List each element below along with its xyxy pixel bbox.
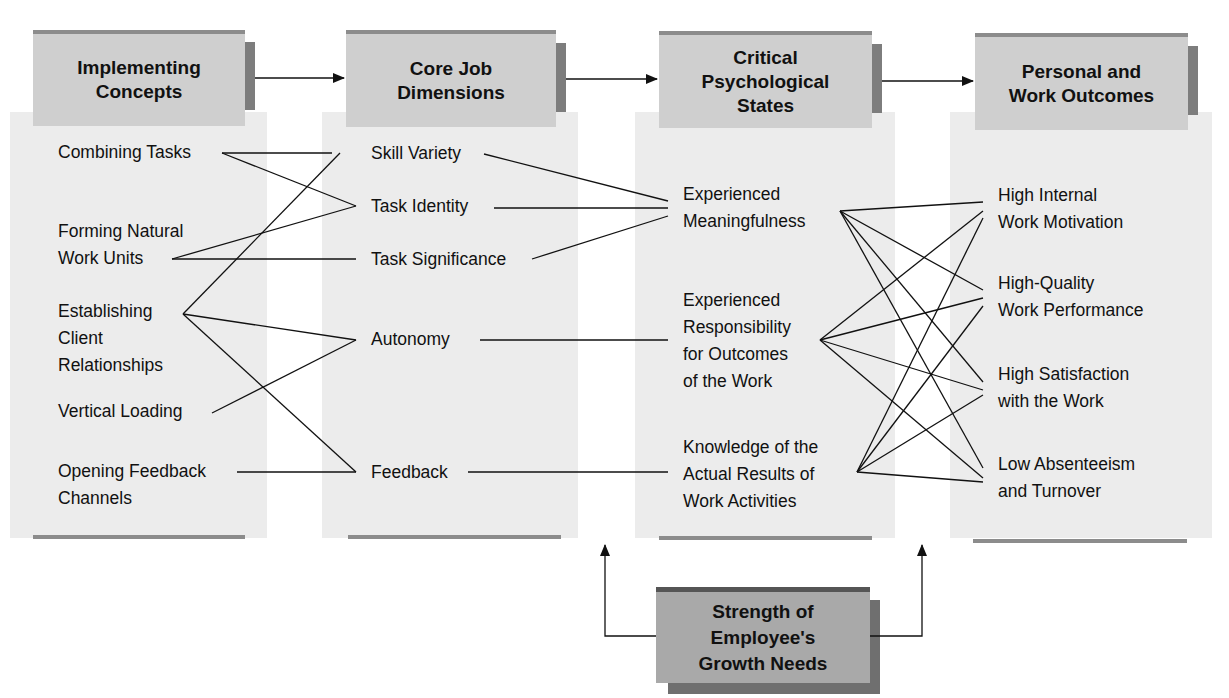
label-line: Autonomy — [371, 326, 450, 353]
concept-vertical-loading: Vertical Loading — [58, 398, 183, 425]
concept-opening-feedback-channels: Opening FeedbackChannels — [58, 458, 206, 512]
label-line: Relationships — [58, 352, 163, 379]
label-line: with the Work — [998, 388, 1129, 415]
connector-lines — [0, 0, 1229, 698]
state-experienced-meaningfulness: ExperiencedMeaningfulness — [683, 181, 806, 235]
label-line: Work Activities — [683, 488, 818, 515]
outcome-high-internal-motivation: High InternalWork Motivation — [998, 182, 1123, 236]
label-line: Work Motivation — [998, 209, 1123, 236]
label-line: Responsibility — [683, 314, 791, 341]
label-line: Feedback — [371, 459, 448, 486]
label-line: Actual Results of — [683, 461, 818, 488]
dimension-skill-variety: Skill Variety — [371, 140, 461, 167]
label-line: Experienced — [683, 287, 791, 314]
label-line: Client — [58, 325, 163, 352]
concept-forming-natural-work-units: Forming NaturalWork Units — [58, 218, 183, 272]
label-line: of the Work — [683, 368, 791, 395]
label-line: Channels — [58, 485, 206, 512]
label-line: Knowledge of the — [683, 434, 818, 461]
label-line: High Satisfaction — [998, 361, 1129, 388]
dimension-feedback: Feedback — [371, 459, 448, 486]
arrow-up-icon — [605, 545, 656, 636]
label-line: Task Significance — [371, 246, 506, 273]
label-line: Combining Tasks — [58, 139, 191, 166]
label-line: and Turnover — [998, 478, 1135, 505]
label-line: Work Units — [58, 245, 183, 272]
label-line: Meaningfulness — [683, 208, 806, 235]
label-line: Establishing — [58, 298, 163, 325]
dimension-autonomy: Autonomy — [371, 326, 450, 353]
label-line: Vertical Loading — [58, 398, 183, 425]
dimension-task-significance: Task Significance — [371, 246, 506, 273]
label-line: Task Identity — [371, 193, 468, 220]
label-line: for Outcomes — [683, 341, 791, 368]
label-line: High-Quality — [998, 270, 1144, 297]
concept-establishing-client-relationships: EstablishingClientRelationships — [58, 298, 163, 379]
label-line: Low Absenteeism — [998, 451, 1135, 478]
label-line: High Internal — [998, 182, 1123, 209]
label-line: Skill Variety — [371, 140, 461, 167]
outcome-high-quality-performance: High-QualityWork Performance — [998, 270, 1144, 324]
outcome-low-absenteeism: Low Absenteeismand Turnover — [998, 451, 1135, 505]
label-line: Work Performance — [998, 297, 1144, 324]
label-line: Forming Natural — [58, 218, 183, 245]
state-knowledge-of-results: Knowledge of theActual Results ofWork Ac… — [683, 434, 818, 515]
outcome-high-satisfaction: High Satisfactionwith the Work — [998, 361, 1129, 415]
state-experienced-responsibility: ExperiencedResponsibilityfor Outcomesof … — [683, 287, 791, 395]
label-line: Opening Feedback — [58, 458, 206, 485]
arrow-up-icon — [870, 545, 922, 636]
label-line: Experienced — [683, 181, 806, 208]
dimension-task-identity: Task Identity — [371, 193, 468, 220]
concept-combining-tasks: Combining Tasks — [58, 139, 191, 166]
